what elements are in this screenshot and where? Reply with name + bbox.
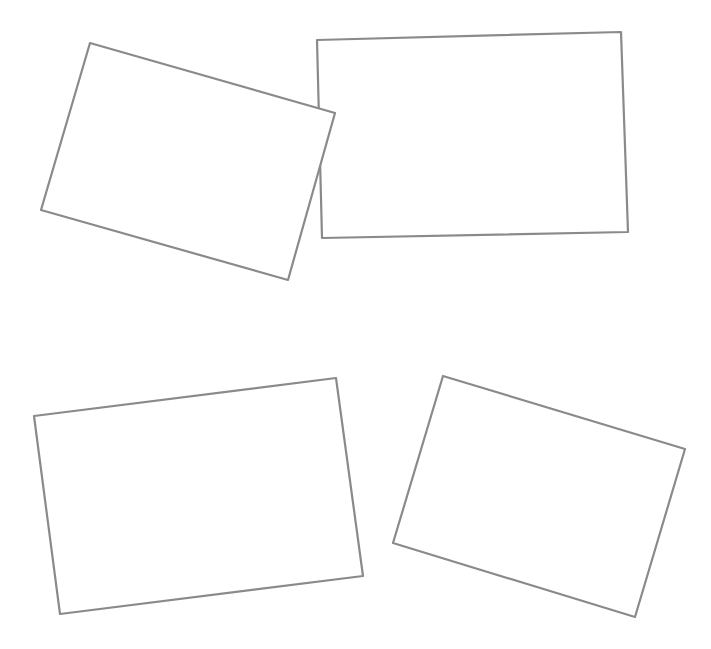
rectangle-bottom-left <box>34 378 363 614</box>
rectangle-top-right <box>317 32 628 238</box>
drawing-canvas <box>0 0 711 649</box>
